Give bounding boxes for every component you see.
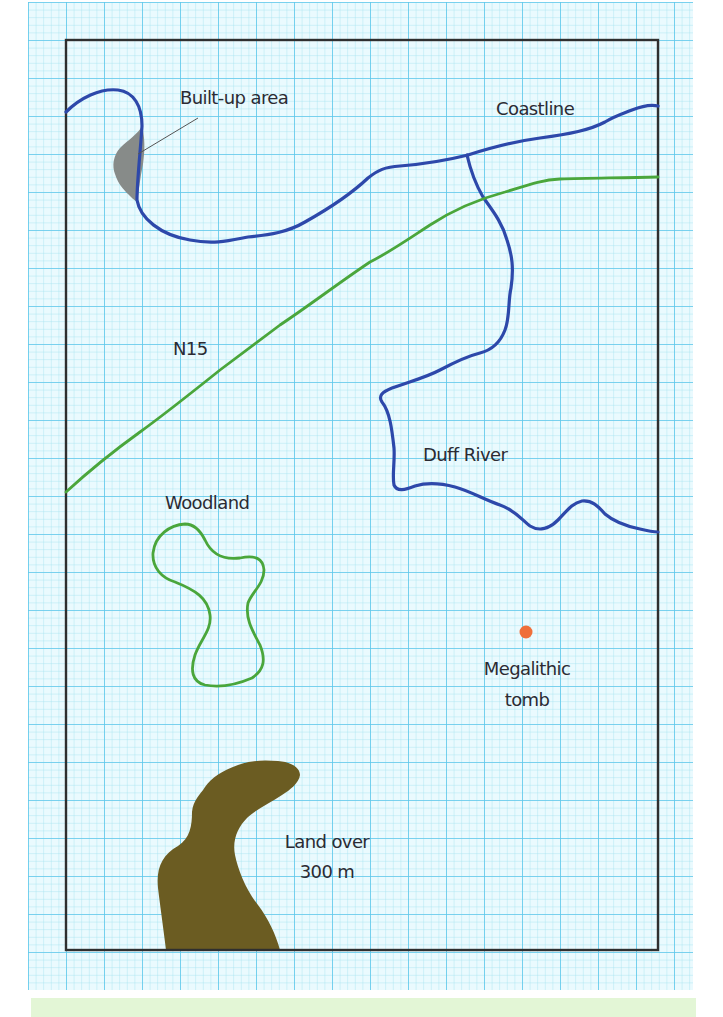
megalithic-tomb-marker [520, 626, 533, 639]
sketch-map: Built-up area Coastline N15 Duff River W… [0, 0, 723, 1017]
coastline-label: Coastline [496, 98, 575, 119]
duff-river-label: Duff River [423, 444, 508, 465]
built-up-area-label: Built-up area [180, 87, 288, 108]
n15-label: N15 [173, 338, 208, 359]
megalithic-tomb-label-line1: Megalithic [484, 658, 570, 679]
footer-band [31, 998, 696, 1017]
megalithic-tomb-label-line2: tomb [505, 689, 550, 710]
high-land-label-line1: Land over [285, 831, 371, 852]
high-land-label-line2: 300 m [300, 861, 355, 882]
woodland-label: Woodland [165, 492, 249, 513]
map-canvas: Built-up area Coastline N15 Duff River W… [0, 0, 723, 1017]
